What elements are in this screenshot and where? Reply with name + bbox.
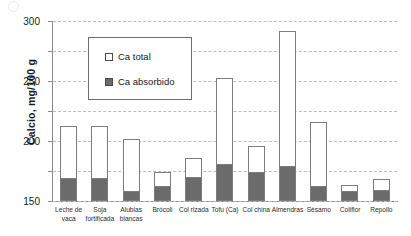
bar-group[interactable]	[334, 21, 365, 201]
y-tick-label: 250	[23, 76, 40, 87]
legend-swatch-absorbed-icon	[105, 78, 113, 86]
bar-group[interactable]	[303, 21, 334, 201]
legend-item-ca-total: Ca total	[105, 51, 151, 62]
bar-group[interactable]	[241, 21, 272, 201]
bar-ca-absorbido[interactable]	[123, 191, 140, 201]
legend-item-ca-absorbido: Ca absorbido	[105, 76, 175, 87]
bar-group[interactable]	[366, 21, 397, 201]
y-tick-label: 200	[23, 136, 40, 147]
gridline	[53, 201, 397, 202]
y-tick-label: 150	[23, 196, 40, 207]
y-tick-mark: 0	[48, 201, 53, 202]
y-axis-title: Calcio, mg/100 g	[25, 32, 37, 172]
bar-group[interactable]	[272, 21, 303, 201]
bar-ca-absorbido[interactable]	[216, 164, 233, 201]
x-axis-label-line: blancas	[108, 214, 154, 223]
scan-artifact-icon	[8, 1, 19, 12]
x-axis-labels: Leche devacaSojafortificadaAlubiasblanca…	[53, 205, 397, 235]
calcium-bar-chart: Calcio, mg/100 g 050100150200250300 Lech…	[0, 0, 411, 236]
bar-ca-absorbido[interactable]	[248, 172, 265, 201]
x-axis-label-line: Repollo	[358, 205, 404, 214]
legend-label-ca-absorbido: Ca absorbido	[118, 76, 175, 87]
bar-ca-absorbido[interactable]	[154, 186, 171, 201]
bar-ca-absorbido[interactable]	[310, 186, 327, 201]
bar-ca-absorbido[interactable]	[341, 191, 358, 201]
bar-ca-absorbido[interactable]	[373, 190, 390, 201]
bar-ca-absorbido[interactable]	[279, 166, 296, 201]
y-tick-label: 300	[23, 16, 40, 27]
bar-group[interactable]	[209, 21, 240, 201]
legend-swatch-total-icon	[105, 53, 113, 61]
x-axis-label: Repollo	[358, 205, 404, 214]
bar-group[interactable]	[53, 21, 84, 201]
chart-legend: Ca total Ca absorbido	[88, 37, 192, 100]
bar-ca-absorbido[interactable]	[60, 178, 77, 201]
bar-ca-absorbido[interactable]	[185, 177, 202, 201]
bar-ca-absorbido[interactable]	[91, 178, 108, 201]
legend-label-ca-total: Ca total	[118, 51, 151, 62]
